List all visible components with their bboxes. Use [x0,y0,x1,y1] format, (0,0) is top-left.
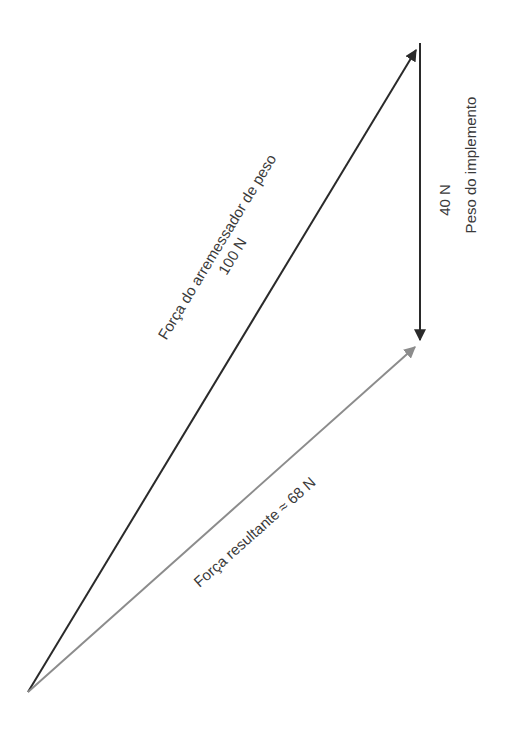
resultant-force-arrow [28,347,415,692]
thrower-force-label: Força do arremessador de peso [154,151,279,342]
weight-value: 40 N [436,184,453,216]
weight-label: Peso do implemento [462,97,479,234]
vector-diagram: Força do arremessador de peso 100 N 40 N… [0,0,515,731]
thrower-force-arrow [28,50,416,692]
